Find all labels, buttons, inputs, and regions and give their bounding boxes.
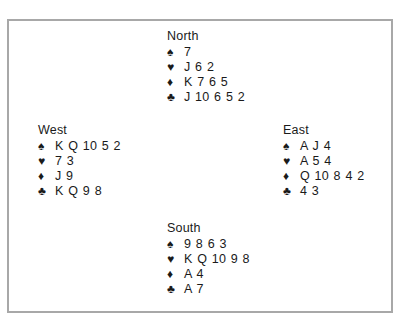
suit-row-spades: ♠ A J 4	[283, 139, 364, 154]
seat-label-west: West	[38, 123, 121, 138]
cards-clubs: A 7	[184, 282, 204, 297]
hand-east: East ♠ A J 4 ♥ A 5 4 ♦ Q 10 8 4 2 ♣ 4 3	[283, 123, 364, 199]
club-icon: ♣	[283, 184, 300, 199]
bridge-deal-diagram: North ♠ 7 ♥ J 6 2 ♦ K 7 6 5 ♣ J 10 6 5 2…	[7, 19, 393, 313]
heart-icon: ♥	[167, 60, 184, 75]
suit-row-spades: ♠ 7	[167, 45, 245, 60]
cards-diamonds: K 7 6 5	[184, 75, 228, 90]
suit-row-diamonds: ♦ Q 10 8 4 2	[283, 169, 364, 184]
suit-row-hearts: ♥ J 6 2	[167, 60, 245, 75]
cards-hearts: A 5 4	[300, 154, 332, 169]
suit-row-clubs: ♣ K Q 9 8	[38, 184, 121, 199]
cards-hearts: 7 3	[55, 154, 74, 169]
cards-clubs: J 10 6 5 2	[184, 90, 245, 105]
heart-icon: ♥	[283, 154, 300, 169]
suit-row-spades: ♠ K Q 10 5 2	[38, 139, 121, 154]
cards-spades: 7	[184, 45, 191, 60]
suit-row-clubs: ♣ 4 3	[283, 184, 364, 199]
seat-label-east: East	[283, 123, 364, 138]
suit-row-spades: ♠ 9 8 6 3	[167, 237, 250, 252]
cards-spades: A J 4	[300, 139, 331, 154]
club-icon: ♣	[167, 90, 184, 105]
suit-row-diamonds: ♦ J 9	[38, 169, 121, 184]
diamond-icon: ♦	[283, 169, 300, 184]
suit-row-hearts: ♥ 7 3	[38, 154, 121, 169]
cards-diamonds: Q 10 8 4 2	[300, 169, 364, 184]
suit-row-clubs: ♣ J 10 6 5 2	[167, 90, 245, 105]
seat-label-south: South	[167, 221, 250, 236]
hand-west: West ♠ K Q 10 5 2 ♥ 7 3 ♦ J 9 ♣ K Q 9 8	[38, 123, 121, 199]
spade-icon: ♠	[167, 237, 184, 252]
diamond-icon: ♦	[167, 75, 184, 90]
spade-icon: ♠	[283, 139, 300, 154]
cards-diamonds: A 4	[184, 267, 204, 282]
cards-hearts: K Q 10 9 8	[184, 252, 250, 267]
suit-row-hearts: ♥ K Q 10 9 8	[167, 252, 250, 267]
club-icon: ♣	[167, 282, 184, 297]
hand-south: South ♠ 9 8 6 3 ♥ K Q 10 9 8 ♦ A 4 ♣ A 7	[167, 221, 250, 297]
suit-row-diamonds: ♦ K 7 6 5	[167, 75, 245, 90]
cards-clubs: 4 3	[300, 184, 319, 199]
diamond-icon: ♦	[38, 169, 55, 184]
heart-icon: ♥	[167, 252, 184, 267]
suit-row-diamonds: ♦ A 4	[167, 267, 250, 282]
cards-clubs: K Q 9 8	[55, 184, 102, 199]
cards-hearts: J 6 2	[184, 60, 214, 75]
seat-label-north: North	[167, 29, 245, 44]
club-icon: ♣	[38, 184, 55, 199]
cards-spades: 9 8 6 3	[184, 237, 227, 252]
spade-icon: ♠	[38, 139, 55, 154]
suit-row-hearts: ♥ A 5 4	[283, 154, 364, 169]
hand-north: North ♠ 7 ♥ J 6 2 ♦ K 7 6 5 ♣ J 10 6 5 2	[167, 29, 245, 105]
diamond-icon: ♦	[167, 267, 184, 282]
spade-icon: ♠	[167, 45, 184, 60]
cards-spades: K Q 10 5 2	[55, 139, 121, 154]
suit-row-clubs: ♣ A 7	[167, 282, 250, 297]
cards-diamonds: J 9	[55, 169, 73, 184]
heart-icon: ♥	[38, 154, 55, 169]
